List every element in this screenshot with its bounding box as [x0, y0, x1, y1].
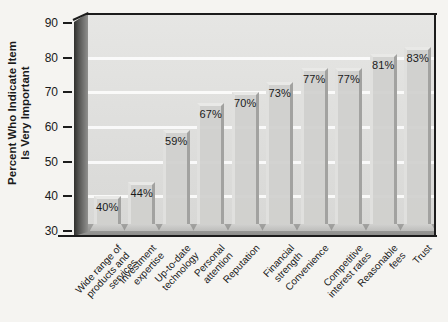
y-tick-label: 80: [26, 51, 58, 65]
bar-value-label: 67%: [191, 108, 232, 120]
bar-value-label: 73%: [260, 87, 301, 99]
bar-base-bevel: [228, 224, 263, 231]
bar: [197, 103, 224, 231]
y-axis-title-line-1: Percent Who Indicate Item: [6, 3, 19, 223]
y-tick-mark: [63, 161, 72, 163]
y-tick-mark: [63, 57, 72, 59]
y-tick-label: 30: [26, 224, 58, 238]
bar-base-bevel: [124, 224, 159, 231]
y-tick-mark: [63, 230, 72, 232]
bar: [301, 68, 328, 231]
bar-base-bevel: [331, 224, 366, 231]
bar-base-bevel: [193, 224, 228, 231]
y-tick-label: 50: [26, 155, 58, 169]
bar: [232, 92, 259, 231]
y-tick-mark: [63, 91, 72, 93]
bar-value-label: 59%: [156, 135, 197, 147]
y-tick-mark: [63, 126, 72, 128]
y-tick-label: 60: [26, 120, 58, 134]
y-tick-label: 40: [26, 189, 58, 203]
plot-frame-right: [434, 13, 436, 237]
bar-base-bevel: [297, 224, 332, 231]
plot-left-wall: [74, 13, 88, 236]
bar-base-bevel: [400, 224, 435, 231]
bar-base-bevel: [262, 224, 297, 231]
y-tick-mark: [63, 195, 72, 197]
category-label-line: Trust: [411, 243, 434, 267]
bar: [266, 82, 293, 231]
bar-value-label: 40%: [87, 201, 128, 213]
y-tick-mark: [63, 22, 72, 24]
bar-value-label: 83%: [398, 52, 439, 64]
bar-base-bevel: [366, 224, 401, 231]
bar-base-bevel: [90, 224, 125, 231]
bar: [370, 54, 397, 231]
category-label: Trust: [411, 243, 434, 267]
bar: [335, 68, 362, 231]
y-tick-label: 70: [26, 85, 58, 99]
plot-frame-top: [86, 13, 437, 15]
bar-base-bevel: [159, 224, 194, 231]
bar-value-label: 70%: [225, 97, 266, 109]
bar-value-label: 44%: [122, 187, 163, 199]
bar-value-label: 77%: [329, 73, 370, 85]
bar-chart-figure: Percent Who Indicate Item Is Very Import…: [0, 0, 448, 322]
y-tick-label: 90: [26, 16, 58, 30]
bar: [404, 47, 431, 231]
plot-frame-bottom: [58, 235, 437, 237]
